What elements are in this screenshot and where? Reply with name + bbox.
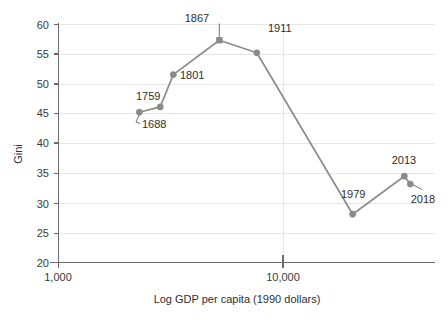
y-tick-label: 30 [37,198,49,210]
x-tick-label: 10,000 [266,271,300,283]
axis-y [54,23,59,263]
label-leader-lines [136,24,422,190]
data-label-2018: 2018 [411,193,435,205]
y-tick-label: 60 [37,19,49,31]
leader-2018 [413,185,423,190]
y-tick-label: 25 [37,227,49,239]
data-point-1911[interactable] [254,50,260,56]
data-point-2018[interactable] [407,181,413,187]
y-tick-label: 20 [37,257,49,269]
y-tick-label: 55 [37,48,49,60]
series-markers [136,37,413,217]
data-label-1759: 1759 [136,90,160,102]
data-point-2013[interactable] [401,173,407,179]
data-label-2013: 2013 [392,154,416,166]
leader-1688 [136,115,140,124]
x-tick-label: 1,000 [44,271,72,283]
chart-svg: 60 55 50 45 40 35 30 25 20 1,000 10,000 … [0,0,448,320]
data-label-1911: 1911 [268,22,292,34]
y-axis-tick-labels: 60 55 50 45 40 35 30 25 20 [37,19,49,269]
series-line-gini [139,40,410,214]
y-tick-label: 50 [37,78,49,90]
data-point-labels: 1867 1911 1801 1759 1688 1979 2013 2018 [136,12,435,205]
data-point-1867[interactable] [216,37,222,43]
x-axis-tick-labels: 1,000 10,000 [44,271,300,283]
data-point-1979[interactable] [350,211,356,217]
data-point-1759[interactable] [157,104,163,110]
data-point-1801[interactable] [170,72,176,78]
x-axis-title: Log GDP per capita (1990 dollars) [154,293,321,305]
y-tick-label: 45 [37,107,49,119]
y-tick-label: 40 [37,137,49,149]
data-label-1867: 1867 [185,12,209,24]
data-label-1688: 1688 [142,118,166,130]
y-tick-label: 35 [37,167,49,179]
y-axis-title: Gini [12,144,24,164]
gridlines-horizontal [58,25,435,234]
data-label-1801: 1801 [180,69,204,81]
axis-x [50,255,435,268]
data-label-1979: 1979 [341,188,365,200]
data-point-1688[interactable] [136,109,142,115]
gini-vs-log-gdp-line-chart: 60 55 50 45 40 35 30 25 20 1,000 10,000 … [0,0,448,320]
